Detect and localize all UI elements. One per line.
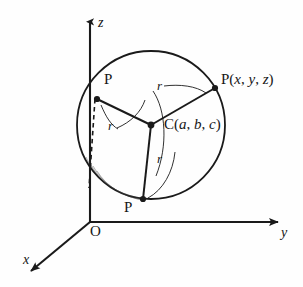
x-axis bbox=[31, 222, 90, 271]
radius-label-top: r bbox=[157, 79, 162, 92]
z-axis-label: z bbox=[98, 16, 103, 30]
radius-line-bottom bbox=[143, 125, 151, 199]
point-label-right: P(x, y, z) bbox=[221, 72, 274, 87]
geometry-figure: z y x O P P P(x, y, z) C(a, b, c) r r r bbox=[0, 0, 303, 287]
point-label-bottom: P bbox=[124, 200, 132, 215]
point-right-comma1: , bbox=[241, 71, 249, 87]
center-label: C(a, b, c) bbox=[164, 117, 221, 132]
radius-label-bottom: r bbox=[157, 152, 162, 165]
sphere-shading-arcs bbox=[86, 157, 142, 200]
axis-group bbox=[31, 22, 278, 271]
center-dot bbox=[148, 122, 155, 129]
center-comma1: , bbox=[187, 116, 195, 132]
center-close: ) bbox=[216, 116, 221, 132]
center-c: c bbox=[209, 116, 216, 132]
point-dot-upper-left bbox=[94, 96, 100, 102]
x-axis-label: x bbox=[23, 253, 29, 267]
figure-drawing bbox=[0, 0, 303, 287]
point-dot-bottom bbox=[140, 196, 146, 202]
center-b: b bbox=[194, 116, 202, 132]
center-name: C bbox=[164, 116, 174, 132]
point-right-comma2: , bbox=[255, 71, 263, 87]
point-label-upper-left: P bbox=[104, 72, 112, 87]
point-dot-right bbox=[212, 85, 218, 91]
center-comma2: , bbox=[202, 116, 210, 132]
point-dots bbox=[94, 85, 218, 202]
point-right-x: x bbox=[234, 71, 241, 87]
origin-label: O bbox=[90, 224, 101, 239]
radius-line-upper-left bbox=[97, 99, 151, 125]
center-a: a bbox=[179, 116, 187, 132]
leader-arc-top bbox=[164, 85, 206, 93]
leader-arc-left bbox=[117, 100, 145, 128]
point-right-close: ) bbox=[269, 71, 274, 87]
radius-label-left: r bbox=[108, 119, 113, 132]
y-axis-label: y bbox=[281, 226, 287, 240]
